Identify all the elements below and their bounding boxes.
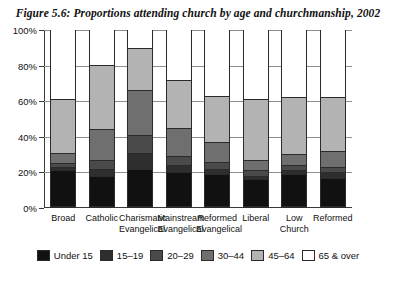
bar-low-church[interactable] xyxy=(281,30,307,208)
legend-swatch xyxy=(251,250,264,261)
legend-item[interactable]: 30–44 xyxy=(201,250,244,261)
bar-segment xyxy=(321,98,345,151)
bar-segment xyxy=(90,177,114,207)
bar-segment xyxy=(167,29,191,81)
bar-segment xyxy=(205,29,229,97)
bar-segment xyxy=(128,136,152,154)
bar-segment xyxy=(128,170,152,207)
bar-segment xyxy=(205,97,229,143)
bar-segment xyxy=(167,81,191,129)
bar-segment xyxy=(51,100,75,153)
bar-segment xyxy=(321,29,345,98)
bar-liberal[interactable] xyxy=(243,30,269,208)
bar-segment xyxy=(90,66,114,130)
bar-segment xyxy=(205,163,229,170)
y-axis-tick xyxy=(39,172,44,173)
bar-segment xyxy=(90,161,114,170)
bar-segment xyxy=(244,29,268,100)
plot-area: 0%20%40%60%80%100% BroadCatholicCharisma… xyxy=(44,30,352,208)
y-axis-label: 60% xyxy=(18,96,37,107)
bar-segment xyxy=(128,91,152,136)
legend-swatch xyxy=(302,250,315,261)
y-axis-tick xyxy=(39,66,44,67)
legend-label: 65 & over xyxy=(319,250,360,261)
x-axis-label: Mainstream Evangelical xyxy=(158,213,201,234)
bar-segment xyxy=(51,29,75,100)
y-axis-tick xyxy=(39,137,44,138)
bar-segment xyxy=(282,98,306,155)
x-axis-label: Reformed xyxy=(312,213,355,224)
bar-segment xyxy=(282,155,306,166)
bar-segment xyxy=(282,175,306,207)
legend-item[interactable]: 15–19 xyxy=(100,250,143,261)
y-axis-label: 100% xyxy=(13,25,37,36)
legend-label: 20–29 xyxy=(167,250,193,261)
bar-segment xyxy=(321,152,345,168)
bar-reformed-evangelical[interactable] xyxy=(204,30,230,208)
bar-catholic[interactable] xyxy=(89,30,115,208)
bar-charismatic-evangelical[interactable] xyxy=(127,30,153,208)
bar-reformed[interactable] xyxy=(320,30,346,208)
x-axis-label: Liberal xyxy=(235,213,278,224)
bar-segment xyxy=(51,171,75,207)
bar-segment xyxy=(51,154,75,165)
legend-item[interactable]: 45–64 xyxy=(251,250,294,261)
bar-segment xyxy=(244,161,268,172)
y-axis-label: 20% xyxy=(18,167,37,178)
legend-swatch xyxy=(150,250,163,261)
y-axis-label: 40% xyxy=(18,131,37,142)
bar-segment xyxy=(167,166,191,173)
bar-segment xyxy=(90,130,114,160)
bar-segment xyxy=(321,179,345,207)
x-axis-label: Charismatic Evangelical xyxy=(119,213,162,234)
bar-segment xyxy=(205,175,229,207)
legend-swatch xyxy=(100,250,113,261)
chart-title: Figure 5.6: Proportions attending church… xyxy=(0,7,396,19)
x-axis-label: Reformed Evangelical xyxy=(196,213,239,234)
legend-item[interactable]: Under 15 xyxy=(37,250,93,261)
legend-swatch xyxy=(201,250,214,261)
legend-swatch xyxy=(37,250,50,261)
bar-mainstream-evangelical[interactable] xyxy=(166,30,192,208)
bar-segment xyxy=(167,157,191,166)
bar-segment xyxy=(128,154,152,170)
bar-segment xyxy=(167,129,191,157)
figure-container: Figure 5.6: Proportions attending church… xyxy=(0,0,396,285)
bar-segment xyxy=(128,49,152,92)
bar-segment xyxy=(167,173,191,207)
bar-segment xyxy=(244,180,268,207)
y-axis-label: 80% xyxy=(18,60,37,71)
y-axis-tick xyxy=(39,30,44,31)
legend-label: 15–19 xyxy=(117,250,143,261)
bar-segment xyxy=(90,29,114,66)
bar-segment xyxy=(205,143,229,163)
x-axis-label: Low Church xyxy=(273,213,316,234)
legend-label: Under 15 xyxy=(54,250,93,261)
legend-item[interactable]: 65 & over xyxy=(302,250,360,261)
y-axis-label: 0% xyxy=(23,203,37,214)
x-axis-label: Catholic xyxy=(81,213,124,224)
bar-segment xyxy=(244,100,268,161)
legend-label: 30–44 xyxy=(218,250,244,261)
bar-segment xyxy=(90,170,114,177)
bar-segment xyxy=(128,29,152,49)
legend-item[interactable]: 20–29 xyxy=(150,250,193,261)
bar-segment xyxy=(282,29,306,98)
x-axis-label: Broad xyxy=(42,213,85,224)
y-axis-tick xyxy=(39,101,44,102)
legend-label: 45–64 xyxy=(268,250,294,261)
bar-broad[interactable] xyxy=(50,30,76,208)
chart-legend: Under 1515–1920–2930–4445–6465 & over xyxy=(0,250,396,261)
y-axis-tick xyxy=(39,208,44,209)
